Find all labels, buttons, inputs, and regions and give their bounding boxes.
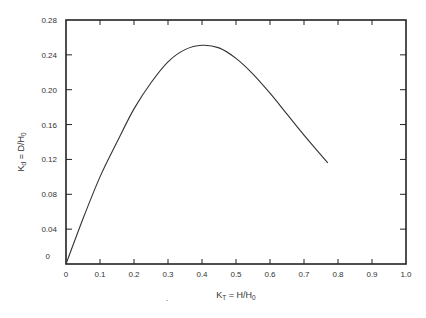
y-tick-label: 0.20 (41, 86, 57, 95)
x-tick-label: 0.2 (128, 270, 140, 279)
y-tick-label: 0 (46, 252, 51, 261)
x-tick-label: 0.7 (298, 270, 310, 279)
x-tick-label: 0.8 (332, 270, 344, 279)
y-tick-label: 0.08 (41, 190, 57, 199)
y-tick-label: 0.28 (41, 16, 57, 25)
x-axis-ticks: 00.10.20.30.40.50.60.70.80.91.0 (64, 20, 412, 279)
y-tick-label: 0.04 (41, 225, 57, 234)
data-series (66, 45, 328, 264)
y-axis-ticks: 00.040.080.120.160.200.240.28 (41, 16, 406, 261)
x-tick-label: 0.5 (230, 270, 242, 279)
x-axis-label: KT = H/H0 (216, 290, 256, 301)
x-tick-label: 1.0 (400, 270, 412, 279)
y-axis-label: Kd = D/H0 (16, 132, 27, 171)
stray-dot-mark: . (166, 294, 168, 303)
chart: 00.10.20.30.40.50.60.70.80.91.0 00.040.0… (0, 0, 426, 318)
x-tick-label: 0.3 (162, 270, 174, 279)
y-tick-label: 0.12 (41, 155, 57, 164)
y-tick-label: 0.16 (41, 121, 57, 130)
y-tick-label: 0.24 (41, 51, 57, 60)
x-tick-label: 0.9 (366, 270, 378, 279)
curve-line (66, 45, 328, 264)
x-tick-label: 0.4 (196, 270, 208, 279)
x-tick-label: 0.1 (94, 270, 106, 279)
x-tick-label: 0.6 (264, 270, 276, 279)
x-tick-label: 0 (64, 270, 69, 279)
